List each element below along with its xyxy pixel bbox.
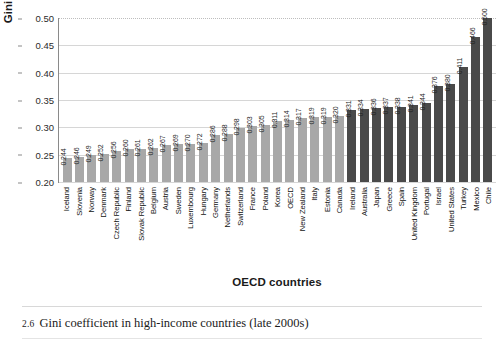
y-axis-title: Gini coefficient [2,0,18,46]
bar[interactable]: 0.331 [347,110,356,182]
bar-value-label: 0.262 [147,139,154,156]
bar[interactable]: 0.298 [236,128,245,182]
bar[interactable]: 0.261 [137,149,146,182]
bar[interactable]: 0.262 [149,148,158,182]
bar-slot: 0.252 [98,18,110,182]
bar[interactable]: 0.246 [75,157,84,182]
bar[interactable]: 0.269 [174,144,183,182]
bar[interactable]: 0.376 [434,86,443,182]
y-tick-label: 0.20 [22,177,54,188]
bar-value-label: 0.244 [60,148,67,165]
caption-text: Gini coefficient in high-income countrie… [39,316,308,330]
bar-value-label: 0.298 [233,119,240,136]
bar-value-label: 0.466 [469,27,476,44]
bar[interactable]: 0.288 [224,134,233,182]
x-tick-label: Germany [211,187,220,218]
bar[interactable]: 0.305 [261,125,270,182]
bar[interactable]: 0.319 [310,117,319,182]
bar[interactable]: 0.344 [422,103,431,182]
bar-slot: 0.261 [135,18,147,182]
x-tick-slot: Netherlands [221,185,233,273]
x-tick-label: Canada [335,187,344,213]
bar[interactable]: 0.272 [199,143,208,182]
y-tick-mark [18,18,22,19]
x-tick-label: United Kingdom [409,187,418,240]
bar-slot: 0.500 [482,18,494,182]
bar[interactable]: 0.267 [162,145,171,182]
bar[interactable]: 0.380 [446,84,455,182]
bar-slot: 0.272 [197,18,209,182]
x-tick-slot: Chile [482,185,494,273]
bar-value-label: 0.338 [394,97,401,114]
x-tick-slot: Sweden [172,185,184,273]
x-tick-label: United States [446,187,455,232]
y-tick-label: 0.45 [22,40,54,51]
bar-slot: 0.319 [321,18,333,182]
bar-value-label: 0.261 [134,139,141,156]
x-tick-label: Portugal [421,187,430,215]
x-tick-slot: Italy [308,185,320,273]
bar[interactable]: 0.341 [409,105,418,182]
y-tick-mark [18,73,22,74]
x-tick-slot: France [246,185,258,273]
bar[interactable]: 0.270 [186,144,195,182]
x-tick-label: Finland [124,187,133,212]
bar-value-label: 0.317 [295,109,302,126]
bar[interactable]: 0.303 [248,126,257,182]
bar[interactable]: 0.317 [298,118,307,182]
y-tick-mark [18,45,22,46]
x-tick-label: Estonia [322,187,331,212]
bar[interactable]: 0.286 [211,135,220,182]
bar[interactable]: 0.411 [459,67,468,182]
bar-value-label: 0.246 [73,147,80,164]
x-tick-label: Czech Republic [111,187,120,239]
bar-value-label: 0.500 [481,8,488,25]
x-tick-label: Denmark [99,187,108,217]
bar[interactable]: 0.256 [112,151,121,182]
bar[interactable]: 0.320 [335,116,344,182]
bar[interactable]: 0.338 [397,107,406,182]
bar-slot: 0.336 [370,18,382,182]
x-tick-label: Israel [434,187,443,205]
bar[interactable]: 0.319 [323,117,332,182]
figure-caption: 2.6Gini coefficient in high-income count… [22,316,489,331]
bar[interactable]: 0.311 [273,121,282,182]
bar-slot: 0.317 [296,18,308,182]
bar[interactable]: 0.252 [100,154,109,182]
x-tick-slot: Belgium [147,185,159,273]
bar-value-label: 0.336 [370,98,377,115]
caption-rule-bottom [22,338,482,339]
bar-value-label: 0.288 [221,124,228,141]
x-tick-label: Spain [397,187,406,206]
bar[interactable]: 0.244 [63,158,72,182]
bar[interactable]: 0.337 [384,107,393,182]
bar[interactable]: 0.336 [372,108,381,182]
y-tick-label: 0.35 [22,95,54,106]
bar-value-label: 0.270 [184,134,191,151]
bar-slot: 0.262 [148,18,160,182]
bar-value-label: 0.411 [456,57,463,74]
bar[interactable]: 0.314 [285,120,294,182]
y-tick-mark [18,182,22,183]
y-tick-label: 0.50 [22,13,54,24]
bar[interactable]: 0.260 [125,149,134,182]
bar-value-label: 0.267 [159,136,166,153]
bar[interactable]: 0.466 [471,37,480,182]
bar-value-label: 0.272 [196,133,203,150]
bar[interactable]: 0.334 [360,109,369,182]
x-tick-slot: New Zealand [296,185,308,273]
x-tick-slot: Israel [432,185,444,273]
x-tick-slot: Slovak Republic [134,185,146,273]
bar[interactable]: 0.249 [87,155,96,182]
bar-slot: 0.338 [395,18,407,182]
bar-value-label: 0.286 [209,125,216,142]
bar-slot: 0.376 [432,18,444,182]
x-tick-slot: Norway [85,185,97,273]
figure-page: Gini coefficient 0.2440.2460.2490.2520.2… [0,0,503,344]
bar-slot: 0.320 [333,18,345,182]
bar-slot: 0.244 [61,18,73,182]
x-axis-tick-labels: IcelandSloveniaNorwayDenmarkCzech Republ… [58,185,496,273]
bar[interactable]: 0.500 [483,18,492,182]
x-tick-slot: Finland [122,185,134,273]
caption-number: 2.6 [22,319,34,329]
